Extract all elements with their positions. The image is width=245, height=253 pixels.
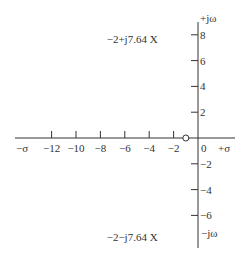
pos-jw-label: +jω (200, 12, 217, 24)
y-tick-label: 4 (200, 80, 206, 92)
x-tick-label: −4 (143, 142, 155, 154)
neg-jw-label: −jω (201, 227, 218, 239)
pole-marker: −2+j7.64 X (107, 33, 158, 45)
pole-marker: −2−j7.64 X (107, 231, 158, 243)
y-tick-label: 2 (200, 106, 206, 118)
y-tick-label: −4 (200, 184, 212, 196)
zero-marker (183, 135, 189, 141)
pos-sigma-label: +σ (218, 142, 230, 154)
x-tick-label: −6 (119, 142, 131, 154)
x-tick-label: −10 (67, 142, 85, 154)
x-tick-label: −12 (43, 142, 60, 154)
y-tick-label: −2 (200, 158, 212, 170)
s-plane-plot: −12−10−8−6−4−2 8642−2−4−6 −σ +σ 0 +jω −j… (0, 0, 245, 253)
origin-label: 0 (201, 142, 207, 154)
x-tick-label: −2 (168, 142, 180, 154)
y-tick-label: −6 (200, 209, 212, 221)
y-tick-label: 6 (200, 55, 206, 67)
x-tick-label: −8 (95, 142, 107, 154)
y-tick-label: 8 (200, 29, 206, 41)
neg-sigma-label: −σ (16, 142, 28, 154)
